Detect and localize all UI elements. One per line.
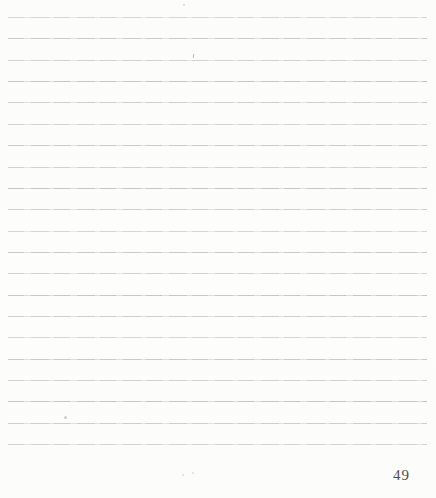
ruled-lines <box>0 0 436 498</box>
rule-line <box>8 17 427 18</box>
rule-line <box>8 81 427 82</box>
rule-line <box>8 38 427 39</box>
rule-line <box>8 423 427 424</box>
rule-line <box>8 209 427 210</box>
rule-line <box>8 337 427 338</box>
rule-line <box>8 167 427 168</box>
rule-line <box>8 102 427 103</box>
rule-line <box>8 145 427 146</box>
rule-line <box>8 273 427 274</box>
scan-speck <box>192 472 194 474</box>
rule-line <box>8 295 427 296</box>
rule-line <box>8 316 427 317</box>
scan-speck <box>182 474 184 476</box>
page-number: 49 <box>393 468 410 483</box>
rule-line <box>8 188 427 189</box>
rule-line <box>8 60 427 61</box>
scan-speck <box>183 4 185 6</box>
notebook-page: 49 <box>0 0 436 498</box>
rule-line <box>8 124 427 125</box>
rule-line <box>8 401 427 402</box>
scan-speck <box>64 416 67 419</box>
rule-line <box>8 252 427 253</box>
rule-line <box>8 444 427 445</box>
rule-line <box>8 231 427 232</box>
rule-line <box>8 359 427 360</box>
rule-line <box>8 380 427 381</box>
